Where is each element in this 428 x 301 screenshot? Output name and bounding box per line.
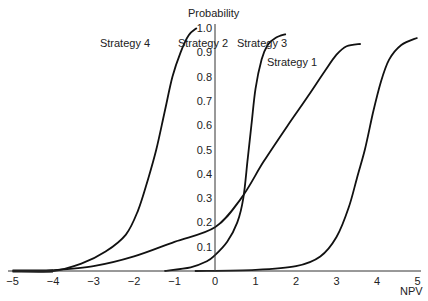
x-tick-label: 3 — [333, 275, 339, 287]
x-tick-label: 4 — [374, 275, 380, 287]
x-tick-label: 1 — [252, 275, 258, 287]
y-tick-label: 0.4 — [197, 168, 212, 180]
curve-strategy-4 — [13, 28, 197, 272]
x-tick-label: 2 — [293, 275, 299, 287]
chart-canvas: −5−4−3−2−1012345 0.10.20.30.40.50.60.70.… — [0, 0, 428, 301]
curve-strategy-1 — [195, 38, 418, 271]
x-tick-label: −2 — [128, 275, 141, 287]
npv-probability-chart: −5−4−3−2−1012345 0.10.20.30.40.50.60.70.… — [0, 0, 428, 301]
y-tick-labels: 0.10.20.30.40.50.60.70.80.91.0 — [197, 22, 212, 253]
x-tick-label: −1 — [168, 275, 181, 287]
series-label-strategy-1: Strategy 1 — [267, 56, 317, 68]
y-tick-label: 0.7 — [197, 95, 212, 107]
x-tick-label: 0 — [212, 275, 218, 287]
curve-strategy-2 — [164, 34, 286, 271]
x-tick-label: −5 — [6, 275, 19, 287]
series-label-strategy-3: Strategy 3 — [237, 37, 287, 49]
y-tick-label: 0.3 — [197, 192, 212, 204]
x-tick-label: −4 — [47, 275, 60, 287]
series-label-strategy-4: Strategy 4 — [100, 37, 150, 49]
y-tick-label: 0.1 — [197, 241, 212, 253]
x-tick-labels: −5−4−3−2−1012345 — [6, 275, 420, 287]
y-tick-label: 0.2 — [197, 216, 212, 228]
y-tick-label: 0.8 — [197, 71, 212, 83]
series-label-strategy-2: Strategy 2 — [178, 37, 228, 49]
y-tick-label: 0.5 — [197, 144, 212, 156]
x-axis-label: NPV — [400, 285, 423, 297]
y-tick-label: 1.0 — [197, 22, 212, 34]
y-axis-label: Probability — [188, 7, 240, 19]
x-tick-label: −3 — [87, 275, 100, 287]
y-tick-label: 0.6 — [197, 119, 212, 131]
